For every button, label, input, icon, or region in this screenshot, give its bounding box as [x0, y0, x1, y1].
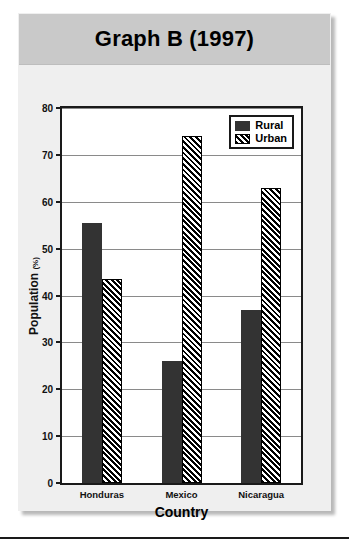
- y-axis-tick-label: 80: [42, 103, 53, 114]
- page-title: Graph B (1997): [95, 26, 254, 52]
- y-axis-tick-label: 40: [42, 290, 53, 301]
- y-axis-title-text: Population (%): [27, 257, 41, 335]
- x-axis-tick-label: Honduras: [80, 489, 124, 500]
- legend-item-rural: Rural: [235, 120, 287, 131]
- x-axis-tick-label: Nicaragua: [238, 489, 284, 500]
- y-axis-tick: [56, 248, 62, 250]
- bar-nicaragua-rural: [241, 310, 261, 483]
- y-axis-tick: [56, 107, 62, 109]
- y-axis-title-unit: (%): [31, 257, 40, 269]
- legend-swatch-rural-icon: [235, 121, 250, 131]
- y-axis-tick-label: 50: [42, 243, 53, 254]
- x-axis-tick-label: Mexico: [165, 489, 197, 500]
- y-axis-tick-label: 10: [42, 431, 53, 442]
- y-axis-tick: [56, 154, 62, 156]
- chart-title-bar: Graph B (1997): [19, 14, 330, 65]
- y-axis-tick: [56, 341, 62, 343]
- plot-frame: 01020304050607080 Rural Urban: [60, 106, 303, 485]
- legend-swatch-urban-icon: [235, 134, 250, 144]
- y-axis-tick: [56, 482, 62, 484]
- legend-label-urban: Urban: [255, 133, 287, 144]
- y-axis-tick: [56, 201, 62, 203]
- gridline: [62, 108, 301, 109]
- y-axis-tick-label: 20: [42, 384, 53, 395]
- figure-panel: Graph B (1997) Population (%) 0102030405…: [18, 13, 331, 511]
- y-axis-tick: [56, 388, 62, 390]
- y-axis-tick: [56, 435, 62, 437]
- bar-mexico-urban: [182, 136, 202, 483]
- x-axis-title: Country: [60, 504, 303, 520]
- legend-label-rural: Rural: [255, 120, 283, 131]
- y-axis-tick-label: 30: [42, 337, 53, 348]
- legend-item-urban: Urban: [235, 133, 287, 144]
- y-axis-tick: [56, 295, 62, 297]
- bar-honduras-rural: [82, 223, 102, 483]
- bar-mexico-rural: [162, 361, 182, 483]
- bar-honduras-urban: [102, 279, 122, 483]
- chart-legend: Rural Urban: [229, 115, 294, 149]
- y-axis-tick-label: 0: [47, 478, 53, 489]
- y-axis-tick-label: 60: [42, 196, 53, 207]
- y-axis-tick-label: 70: [42, 149, 53, 160]
- page-bottom-rule: [0, 537, 349, 539]
- plot-inner: 01020304050607080: [62, 108, 301, 483]
- bar-nicaragua-urban: [261, 188, 281, 483]
- y-axis-title-label: Population: [27, 272, 41, 334]
- chart-area: Population (%) 01020304050607080 Rural U…: [18, 64, 331, 511]
